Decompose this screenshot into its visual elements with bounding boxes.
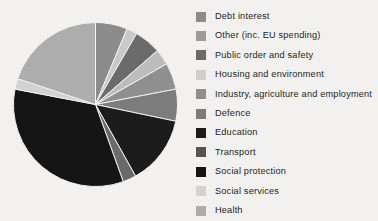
legend-swatch-social-protection [196,167,206,177]
legend-item-housing-and-environment[interactable]: Housing and environment [196,65,378,84]
legend-item-social-services[interactable]: Social services [196,182,378,201]
legend-label-social-services: Social services [215,187,279,196]
legend-label-transport: Transport [215,148,256,157]
chart-legend: Debt interest Other (inc. EU spending) P… [190,0,378,221]
legend-label-other: Other (inc. EU spending) [215,31,321,40]
chart-page: Debt interest Other (inc. EU spending) P… [0,0,378,221]
legend-item-health[interactable]: Health [196,201,378,220]
legend-label-health: Health [215,206,243,215]
legend-item-transport[interactable]: Transport [196,143,378,162]
legend-item-social-protection[interactable]: Social protection [196,162,378,181]
legend-item-public-order-and-safety[interactable]: Public order and safety [196,46,378,65]
legend-item-education[interactable]: Education [196,123,378,142]
legend-label-industry-agriculture-and-employment: Industry, agriculture and employment [215,90,372,99]
legend-swatch-education [196,128,206,138]
legend-label-housing-and-environment: Housing and environment [215,70,324,79]
legend-item-other[interactable]: Other (inc. EU spending) [196,26,378,45]
legend-label-public-order-and-safety: Public order and safety [215,51,313,60]
legend-item-defence[interactable]: Defence [196,104,378,123]
legend-label-defence: Defence [215,109,251,118]
pie-chart [13,22,178,187]
legend-swatch-transport [196,147,206,157]
legend-swatch-housing-and-environment [196,70,206,80]
legend-swatch-other [196,31,206,41]
legend-swatch-industry-agriculture-and-employment [196,89,206,99]
legend-swatch-health [196,206,206,216]
legend-swatch-debt-interest [196,12,206,22]
legend-label-social-protection: Social protection [215,167,286,176]
legend-item-industry-agriculture-and-employment[interactable]: Industry, agriculture and employment [196,85,378,104]
legend-item-debt-interest[interactable]: Debt interest [196,7,378,26]
legend-label-debt-interest: Debt interest [215,12,269,21]
legend-swatch-social-services [196,186,206,196]
legend-swatch-public-order-and-safety [196,50,206,60]
legend-label-education: Education [215,128,258,137]
pie-chart-area [0,0,190,221]
legend-swatch-defence [196,109,206,119]
